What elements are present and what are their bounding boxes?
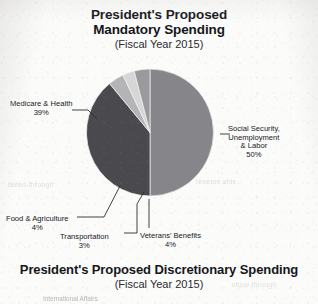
pie-label-food-agriculture: Food & Agriculture 4% <box>6 215 68 232</box>
pie-label-social-security-value: 50% <box>228 151 280 160</box>
discretionary-chart-heading: President's Proposed Discretionary Spend… <box>0 262 318 292</box>
mandatory-title-line-1: President's Proposed <box>0 7 318 22</box>
pie-label-medicare-health-text: Medicare & Health <box>10 99 72 108</box>
pie-svg <box>86 68 214 197</box>
leader-line-transportation <box>124 192 146 234</box>
scanned-page: bleed-through reverse side show through … <box>0 0 318 304</box>
pie-label-social-security-line-3: & Labor <box>241 141 268 150</box>
pie-label-international-affairs-cutoff: International Affairs <box>43 295 98 304</box>
pie-slice-group <box>86 69 213 196</box>
mandatory-subtitle: (Fiscal Year 2015) <box>0 37 318 52</box>
bleed-through-text: bleed-through <box>8 181 54 188</box>
leader-line-veterans-benefits <box>147 199 153 229</box>
mandatory-title-line-2: Mandatory Spending <box>0 22 318 37</box>
pie-label-veterans-benefits-text: Veterans' Benefits <box>140 231 201 240</box>
pie-label-food-agriculture-value: 4% <box>6 224 68 233</box>
pie-label-transportation: Transportation 3% <box>60 233 109 250</box>
mandatory-spending-pie-chart <box>86 68 214 197</box>
discretionary-subtitle: (Fiscal Year 2015) <box>0 277 318 292</box>
pie-slice <box>150 69 214 196</box>
pie-label-medicare-health: Medicare & Health 39% <box>10 100 72 117</box>
pie-label-food-agriculture-text: Food & Agriculture <box>6 214 68 223</box>
pie-label-medicare-health-value: 39% <box>10 109 72 118</box>
pie-label-social-security: Social Security, Unemployment & Labor 50… <box>228 125 280 159</box>
pie-label-veterans-benefits: Veterans' Benefits 4% <box>140 232 201 249</box>
mandatory-chart-heading: President's Proposed Mandatory Spending … <box>0 7 318 52</box>
discretionary-title: President's Proposed Discretionary Spend… <box>0 262 318 277</box>
pie-label-transportation-value: 3% <box>60 242 109 251</box>
pie-label-international-affairs-text: International Affairs <box>43 295 98 302</box>
pie-label-transportation-text: Transportation <box>60 232 109 241</box>
pie-label-veterans-benefits-value: 4% <box>140 241 201 250</box>
